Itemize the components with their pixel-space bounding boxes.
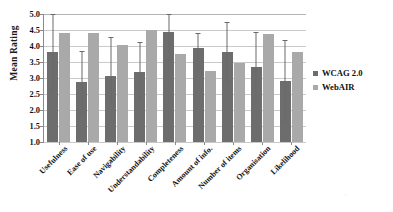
error-bar <box>227 22 228 83</box>
bar-chart: Mean Rating 5.04.54.03.53.02.52.01.51.0 … <box>0 0 393 212</box>
error-bar-cap <box>254 103 259 104</box>
error-bar-cap <box>254 32 259 33</box>
error-bar <box>168 14 169 60</box>
error-bar-cap <box>225 22 230 23</box>
error-bar <box>198 33 199 69</box>
bar-slot <box>47 14 58 142</box>
y-axis-tick-label: 3.5 <box>5 58 43 67</box>
error-bar <box>139 42 140 99</box>
error-bar-cap <box>166 14 171 15</box>
y-axis-tick-label: 4.0 <box>5 42 43 51</box>
y-axis-tick-label: 2.5 <box>5 90 43 99</box>
x-axis-category-labels: UsefulnessEase of useNavigabilityUnderst… <box>43 144 305 210</box>
y-axis-tick-label: 1.0 <box>5 138 43 147</box>
y-axis-tick-label: 2.0 <box>5 106 43 115</box>
legend-swatch-icon <box>313 71 318 76</box>
error-bar-cap <box>79 113 84 114</box>
error-bar-cap <box>79 51 84 52</box>
legend-swatch-icon <box>313 85 318 90</box>
error-bar-cap <box>225 83 230 84</box>
bar-group <box>44 14 73 142</box>
legend-item-label: WCAG 2.0 <box>322 68 363 78</box>
error-bar <box>81 51 82 113</box>
y-axis-tick-label: 4.5 <box>5 26 43 35</box>
bar <box>234 63 245 142</box>
legend-item: WCAG 2.0 <box>313 68 363 78</box>
bar <box>205 71 216 142</box>
y-axis-tick-label: 3.0 <box>5 74 43 83</box>
error-bar-cap <box>166 60 171 61</box>
error-bar-cap <box>108 37 113 38</box>
bar <box>59 33 70 142</box>
error-bar <box>256 32 257 103</box>
legend-item: WebAIR <box>313 82 363 92</box>
error-bar-cap <box>108 100 113 101</box>
error-bar-cap <box>283 40 288 41</box>
error-bar <box>285 40 286 122</box>
error-bar <box>52 14 53 91</box>
error-bar-cap <box>137 99 142 100</box>
error-bar-cap <box>196 33 201 34</box>
bar-slot <box>59 14 70 142</box>
y-axis-tick-labels: 5.04.54.03.53.02.52.01.51.0 <box>0 14 43 142</box>
error-bar-cap <box>137 42 142 43</box>
y-axis-tick-label: 1.5 <box>5 122 43 131</box>
error-bar <box>110 37 111 100</box>
error-bar-cap <box>50 14 55 15</box>
chart-legend: WCAG 2.0 WebAIR <box>313 68 363 96</box>
error-bar-cap <box>50 91 55 92</box>
y-axis-tick-label: 5.0 <box>5 10 43 19</box>
legend-item-label: WebAIR <box>322 82 354 92</box>
error-bar-cap <box>196 68 201 69</box>
